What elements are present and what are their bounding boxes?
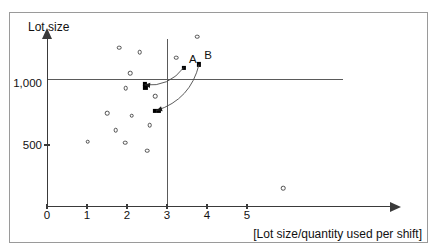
- chart-figure: Lot size [Lot size/quantity used per shi…: [0, 0, 435, 251]
- arrow-from-b-head-icon: [157, 106, 163, 111]
- plot-area: Lot size [Lot size/quantity used per shi…: [0, 0, 435, 251]
- arrow-from-b: [157, 64, 199, 110]
- arrow-from-a: [145, 68, 184, 86]
- annotation-arrow-layer: [0, 0, 435, 251]
